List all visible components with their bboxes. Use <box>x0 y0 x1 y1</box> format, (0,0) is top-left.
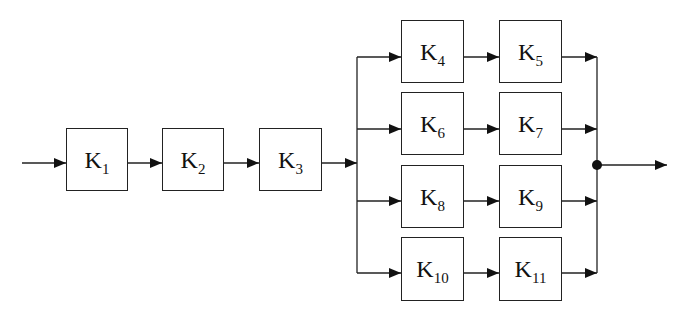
block-k4: K4 <box>401 20 464 83</box>
block-k6: K6 <box>401 92 464 155</box>
block-label: K6 <box>420 112 445 136</box>
block-k7: K7 <box>499 92 562 155</box>
block-label: K9 <box>518 185 543 209</box>
block-label: K4 <box>420 40 445 64</box>
block-k10: K10 <box>401 237 464 301</box>
block-label: K7 <box>518 112 543 136</box>
block-label: K5 <box>518 40 543 64</box>
block-label: K3 <box>278 148 303 172</box>
block-k1: K1 <box>66 128 128 191</box>
block-label: K2 <box>181 148 206 172</box>
block-k9: K9 <box>499 165 562 228</box>
block-k2: K2 <box>162 128 224 191</box>
block-k8: K8 <box>401 165 464 228</box>
junction-dot <box>592 160 602 170</box>
block-k11: K11 <box>499 237 562 301</box>
block-label: K11 <box>515 257 547 281</box>
block-k5: K5 <box>499 20 562 83</box>
block-k3: K3 <box>259 128 322 191</box>
block-label: K1 <box>85 148 110 172</box>
block-diagram: K1 K2 K3 K4 K5 K6 K7 K8 K9 K10 K11 <box>0 0 690 316</box>
block-label: K10 <box>416 257 448 281</box>
block-label: K8 <box>420 185 445 209</box>
